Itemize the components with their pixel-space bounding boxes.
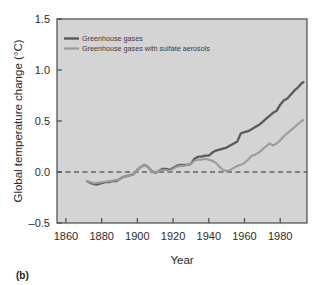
x-axis-title: Year	[170, 254, 193, 266]
y-tick-label: 1.5	[35, 13, 50, 25]
legend-label-greenhouse-gases: Greenhouse gases	[82, 34, 143, 43]
y-tick-label: 0.0	[35, 166, 50, 178]
x-tick-label: 1940	[197, 230, 221, 242]
legend-label-greenhouse-gases-sulfate: Greenhouse gases with sulfate aerosols	[82, 44, 210, 53]
x-tick-label: 1980	[268, 230, 292, 242]
temperature-change-line-chart: –0.50.00.51.01.5 18601880190019201940196…	[0, 0, 323, 285]
panel-label: (b)	[16, 270, 29, 281]
x-tick-label: 1920	[161, 230, 185, 242]
y-axis-tick-labels: –0.50.00.51.01.5	[29, 13, 50, 229]
figure-container: –0.50.00.51.01.5 18601880190019201940196…	[0, 0, 323, 285]
x-tick-label: 1880	[89, 230, 113, 242]
x-tick-label: 1900	[125, 230, 149, 242]
y-axis-title: Global temperature change (°C)	[12, 39, 24, 202]
x-tick-label: 1960	[232, 230, 256, 242]
y-tick-label: 1.0	[35, 64, 50, 76]
x-tick-label: 1860	[54, 230, 78, 242]
x-axis-tick-labels: 1860188019001920194019601980	[54, 230, 293, 242]
y-tick-label: –0.5	[29, 217, 50, 229]
y-tick-label: 0.5	[35, 115, 50, 127]
